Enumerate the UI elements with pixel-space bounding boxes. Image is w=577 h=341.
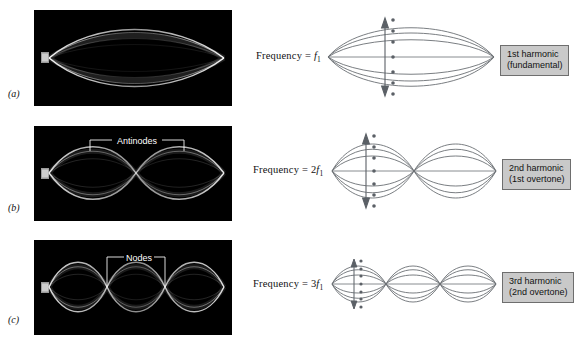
frequency-label-3: Frequency = 3f1 [253,278,323,292]
harmonic-name-2: 2nd harmonic [509,163,565,174]
harmonic-label-3: 3rd harmonic (2nd overtone) [502,272,574,303]
frequency-subscript-1: 1 [317,55,321,64]
frequency-subscript-2: 1 [319,169,323,178]
harmonic-row-2: (b) [0,114,577,227]
schematic-third-harmonic [330,252,498,316]
displacement-dots-1 [391,18,395,96]
photo-panel-first-harmonic [34,10,232,106]
panel-letter-c: (c) [8,314,19,325]
displacement-dots-3 [359,259,362,308]
panel-letter-a: (a) [8,88,20,99]
schematic-first-harmonic [326,12,496,102]
standing-wave-figure: (a) [0,0,577,341]
harmonic-overtone-1: (fundamental) [507,60,563,71]
panel-letter-b: (b) [8,202,20,213]
harmonic-row-3: (c) [0,228,577,341]
photo-panel-second-harmonic: Antinodes [34,126,232,221]
antinodes-annotation-text: Antinodes [117,136,158,146]
harmonic-overtone-2: (1st overtone) [509,174,565,185]
harmonic-row-1: (a) [0,0,577,113]
frequency-label-1: Frequency = f1 [256,50,321,64]
harmonic-name-1: 1st harmonic [507,49,563,60]
schematic-second-harmonic [330,126,498,216]
frequency-subscript-3: 1 [319,283,323,292]
photo-panel-third-harmonic: Nodes [34,240,232,335]
frequency-prefix-1: Frequency = [256,50,314,61]
harmonic-label-2: 2nd harmonic (1st overtone) [502,159,571,190]
displacement-dots-2 [372,134,376,208]
frequency-prefix-2: Frequency = [253,164,311,175]
nodes-annotation-text: Nodes [126,253,153,263]
harmonic-name-3: 3rd harmonic [509,276,568,287]
harmonic-overtone-3: (2nd overtone) [509,287,568,298]
harmonic-label-1: 1st harmonic (fundamental) [500,45,569,76]
frequency-prefix-3: Frequency = [253,278,311,289]
frequency-label-2: Frequency = 2f1 [253,164,323,178]
